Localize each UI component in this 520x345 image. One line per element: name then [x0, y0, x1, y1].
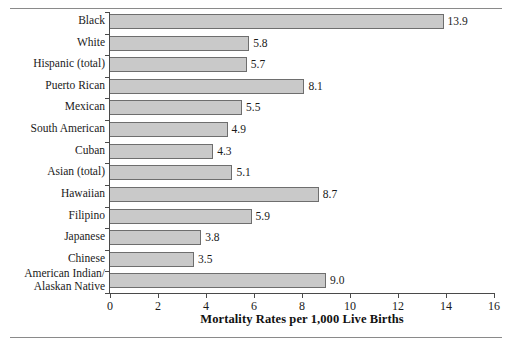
category-label: Chinese: [0, 250, 105, 267]
category-label: Hispanic (total): [0, 55, 105, 72]
bar: [110, 165, 232, 180]
bar-value-label: 4.9: [232, 121, 246, 138]
bar-row: Cuban4.3: [110, 142, 494, 164]
x-axis-tick: [446, 293, 447, 298]
bar-value-label: 8.1: [308, 78, 322, 95]
y-axis-tick: [105, 12, 110, 13]
bar: [110, 14, 444, 29]
bar: [110, 144, 213, 159]
bar-value-label: 3.5: [198, 251, 212, 268]
bar: [110, 122, 228, 137]
y-axis-tick: [105, 98, 110, 99]
category-label-line: Hispanic (total): [33, 57, 105, 69]
bar-value-label: 5.7: [251, 56, 265, 73]
bottom-divider-rule: [10, 337, 502, 338]
bar: [110, 273, 326, 288]
bar-row: White5.8: [110, 34, 494, 56]
category-label-line: Japanese: [64, 230, 105, 242]
x-axis-tick: [302, 293, 303, 298]
y-axis-tick: [105, 55, 110, 56]
top-divider-rule: [10, 8, 502, 9]
x-axis-tick: [110, 293, 111, 298]
bar-value-label: 4.3: [217, 143, 231, 160]
bar-row: Hispanic (total)5.7: [110, 55, 494, 77]
y-axis-tick: [105, 250, 110, 251]
bar-row: Asian (total)5.1: [110, 163, 494, 185]
category-label-line: White: [77, 36, 105, 48]
y-axis-tick: [105, 185, 110, 186]
bar-value-label: 8.7: [323, 186, 337, 203]
category-label-line: South American: [31, 122, 105, 134]
y-axis-tick: [105, 207, 110, 208]
category-label: White: [0, 34, 105, 51]
category-label: South American: [0, 120, 105, 137]
bar-row: Filipino5.9: [110, 207, 494, 229]
category-label: Black: [0, 12, 105, 29]
bar: [110, 187, 319, 202]
category-label: Japanese: [0, 228, 105, 245]
bar: [110, 230, 201, 245]
bar-row: Puerto Rican8.1: [110, 77, 494, 99]
category-label-line: Black: [78, 14, 105, 26]
y-axis-tick: [105, 271, 110, 272]
bar-value-label: 5.1: [236, 164, 250, 181]
bar-row: Chinese3.5: [110, 250, 494, 272]
category-label: Mexican: [0, 98, 105, 115]
category-label-line: Puerto Rican: [45, 79, 105, 91]
bar-value-label: 5.9: [256, 208, 270, 225]
x-axis-tick: [494, 293, 495, 298]
category-label-line: Alaskan Native: [0, 280, 105, 293]
bar: [110, 209, 252, 224]
category-label: Cuban: [0, 142, 105, 159]
category-label: Hawaiian: [0, 185, 105, 202]
x-axis-tick: [398, 293, 399, 298]
x-axis-tick: [350, 293, 351, 298]
y-axis-tick: [105, 77, 110, 78]
y-axis-tick: [105, 34, 110, 35]
bar-row: American Indian/Alaskan Native9.0: [110, 271, 494, 293]
category-label-line: Chinese: [68, 252, 105, 264]
y-axis-tick: [105, 228, 110, 229]
bar-value-label: 3.8: [205, 229, 219, 246]
x-axis-tick: [254, 293, 255, 298]
bar-value-label: 9.0: [330, 272, 344, 289]
category-label-line: Hawaiian: [61, 187, 105, 199]
x-axis-tick: [158, 293, 159, 298]
bar: [110, 252, 194, 267]
x-axis-tick: [206, 293, 207, 298]
bar: [110, 36, 249, 51]
bar: [110, 79, 304, 94]
category-label: Asian (total): [0, 163, 105, 180]
bar-row: South American4.9: [110, 120, 494, 142]
bar: [110, 57, 247, 72]
category-label-line: Asian (total): [47, 165, 105, 177]
y-axis-tick: [105, 163, 110, 164]
bar-value-label: 5.5: [246, 99, 260, 116]
x-axis-title: Mortality Rates per 1,000 Live Births: [110, 312, 494, 327]
bar: [110, 100, 242, 115]
y-axis-tick: [105, 120, 110, 121]
bar-chart-plot-area: Black13.9White5.8Hispanic (total)5.7Puer…: [110, 12, 494, 293]
category-label-line: Cuban: [75, 144, 105, 156]
category-label-line: Filipino: [69, 209, 105, 221]
category-label: Filipino: [0, 207, 105, 224]
bar-value-label: 13.9: [448, 13, 468, 30]
category-label-line: Mexican: [65, 100, 105, 112]
category-label: American Indian/Alaskan Native: [0, 267, 105, 292]
bar-row: Japanese3.8: [110, 228, 494, 250]
bar-row: Black13.9: [110, 12, 494, 34]
y-axis-tick: [105, 142, 110, 143]
bar-row: Mexican5.5: [110, 98, 494, 120]
category-label: Puerto Rican: [0, 77, 105, 94]
figure: Black13.9White5.8Hispanic (total)5.7Puer…: [0, 0, 520, 345]
bar-value-label: 5.8: [253, 35, 267, 52]
category-label-line: American Indian/: [0, 267, 105, 280]
bar-row: Hawaiian8.7: [110, 185, 494, 207]
